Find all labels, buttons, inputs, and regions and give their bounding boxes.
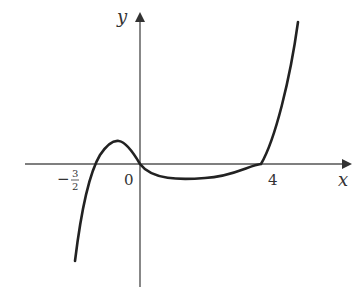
function-graph: y x 0 4 − 3 2 — [0, 0, 363, 287]
frac-den: 2 — [72, 181, 78, 192]
x-axis-label: x — [338, 169, 348, 190]
root-4-label: 4 — [268, 171, 278, 189]
neg-sign: − — [57, 170, 70, 188]
frac-num: 3 — [72, 168, 78, 179]
y-axis-label: y — [116, 6, 128, 27]
origin-label: 0 — [124, 171, 134, 189]
cubic-curve — [75, 22, 298, 261]
